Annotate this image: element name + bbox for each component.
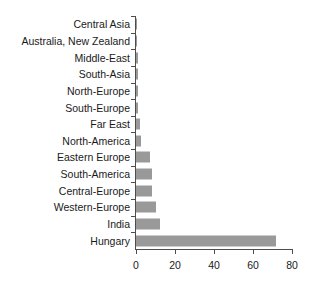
y-axis-tick [131, 132, 135, 133]
y-axis-tick [131, 182, 135, 183]
bar-category-label: Central Asia [73, 19, 130, 30]
bar-category-label: South-America [61, 169, 130, 180]
x-axis-tick-mark [175, 249, 176, 254]
bar [136, 202, 156, 213]
bar-category-label: North-America [62, 135, 130, 146]
bar-category-label: Central-Europe [59, 185, 130, 196]
bar-row: Far East [0, 116, 311, 133]
x-axis-tick-mark [253, 249, 254, 254]
bar-rows: Central AsiaAustralia, New ZealandMiddle… [0, 16, 311, 249]
bar-row: South-America [0, 166, 311, 183]
bar-chart: Central AsiaAustralia, New ZealandMiddle… [0, 0, 311, 294]
x-axis-tick-label: 20 [169, 259, 181, 271]
x-axis-tick-mark [136, 249, 137, 254]
y-axis-tick [131, 232, 135, 233]
bar [136, 35, 137, 46]
x-axis-tick-label: 80 [286, 259, 298, 271]
bar-category-label: Middle-East [75, 52, 130, 63]
y-axis-tick [131, 166, 135, 167]
bar [136, 135, 141, 146]
bar-row: Western-Europe [0, 199, 311, 216]
x-axis-tick-mark [214, 249, 215, 254]
y-axis-tick [131, 49, 135, 50]
bar-category-label: Hungary [90, 235, 130, 246]
bar-category-label: North-Europe [67, 85, 130, 96]
bar [136, 235, 276, 246]
y-axis-tick [131, 33, 135, 34]
y-axis-tick [131, 16, 135, 17]
bar-category-label: India [107, 219, 130, 230]
bar-category-label: South-Europe [65, 102, 130, 113]
bar-row: Australia, New Zealand [0, 33, 311, 50]
x-axis-tick-label: 60 [247, 259, 259, 271]
y-axis-tick [131, 149, 135, 150]
y-axis-tick [131, 99, 135, 100]
bar-category-label: Eastern Europe [57, 152, 130, 163]
bar-category-label: South-Asia [79, 69, 130, 80]
bar [136, 119, 140, 130]
bar [136, 19, 137, 30]
bar-category-label: Western-Europe [54, 202, 130, 213]
bar-row: Central Asia [0, 16, 311, 33]
bar [136, 69, 138, 80]
y-axis-tick [131, 83, 135, 84]
bar-row: North-America [0, 132, 311, 149]
x-axis-ticks: 020406080 [0, 249, 311, 294]
bar-row: Hungary [0, 232, 311, 249]
bar-row: Eastern Europe [0, 149, 311, 166]
bar-category-label: Australia, New Zealand [21, 35, 130, 46]
bar [136, 169, 152, 180]
bar [136, 85, 138, 96]
bar [136, 102, 138, 113]
bar-row: North-Europe [0, 83, 311, 100]
y-axis-tick [131, 216, 135, 217]
bar-category-label: Far East [90, 119, 130, 130]
bar-row: South-Asia [0, 66, 311, 83]
y-axis-tick [131, 199, 135, 200]
bar-row: South-Europe [0, 99, 311, 116]
bar [136, 52, 138, 63]
bar [136, 185, 152, 196]
y-axis-tick [131, 116, 135, 117]
x-axis-tick-label: 0 [133, 259, 139, 271]
x-axis-tick-label: 40 [208, 259, 220, 271]
x-axis-tick-mark [292, 249, 293, 254]
y-axis-tick [131, 66, 135, 67]
bar-row: India [0, 216, 311, 233]
bar [136, 219, 160, 230]
bar-row: Middle-East [0, 49, 311, 66]
bar-row: Central-Europe [0, 182, 311, 199]
bar [136, 152, 150, 163]
